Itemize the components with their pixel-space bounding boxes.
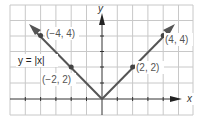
- x-axis-label: x: [186, 93, 193, 104]
- equation-label: y = |x|: [18, 55, 45, 66]
- y-axis-label: y: [97, 3, 104, 14]
- coordinate-plane: (−4, 4) (−2, 2) (2, 2) (4, 4) y = |x| x …: [0, 0, 203, 122]
- label-neg2-2: (−2, 2): [42, 74, 71, 85]
- point-neg2-2: [69, 65, 74, 70]
- label-4-4: (4, 4): [165, 34, 188, 45]
- label-2-2: (2, 2): [136, 62, 159, 73]
- point-neg4-4: [38, 33, 43, 38]
- x-axis-arrow-icon: [170, 96, 182, 102]
- y-axis-arrow-icon: [99, 13, 105, 25]
- label-neg4-4: (−4, 4): [46, 28, 75, 39]
- left-arrow-icon: [29, 24, 41, 35]
- point-2-2: [130, 65, 135, 70]
